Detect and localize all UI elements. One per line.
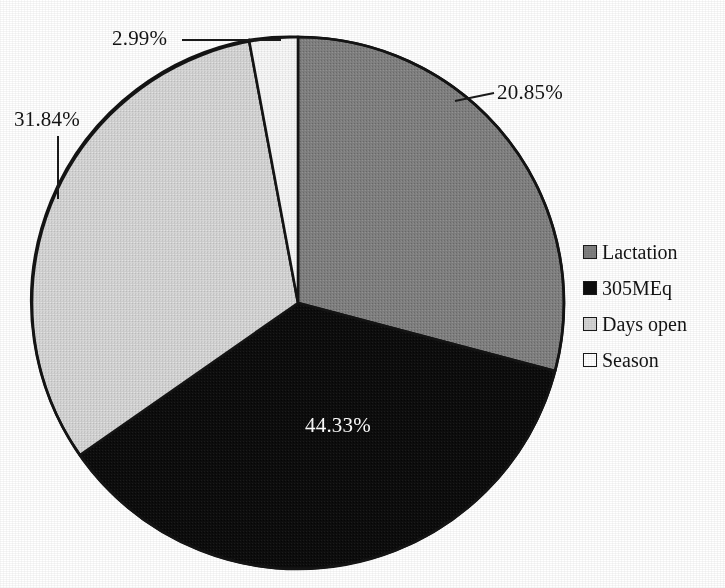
legend-label-season: Season xyxy=(602,350,659,370)
slice-value-305meq: 44.33% xyxy=(305,413,371,438)
legend-label-lactation: Lactation xyxy=(602,242,678,262)
legend-item-season[interactable]: Season xyxy=(583,342,723,378)
slice-value-days-open: 31.84% xyxy=(14,107,80,132)
legend-item-lactation[interactable]: Lactation xyxy=(583,234,723,270)
chart-legend: Lactation 305MEq Days open Season xyxy=(583,234,723,378)
legend-label-305meq: 305MEq xyxy=(602,278,672,298)
legend-swatch-305meq xyxy=(583,281,597,295)
slice-value-lactation: 20.85% xyxy=(497,80,563,105)
legend-swatch-season xyxy=(583,353,597,367)
legend-item-305meq[interactable]: 305MEq xyxy=(583,270,723,306)
slice-value-season: 2.99% xyxy=(112,26,167,51)
legend-swatch-lactation xyxy=(583,245,597,259)
pie-chart: 2.99% 20.85% 31.84% 44.33% Lactation 305… xyxy=(0,0,725,588)
legend-item-days-open[interactable]: Days open xyxy=(583,306,723,342)
legend-swatch-days-open xyxy=(583,317,597,331)
legend-label-days-open: Days open xyxy=(602,314,687,334)
